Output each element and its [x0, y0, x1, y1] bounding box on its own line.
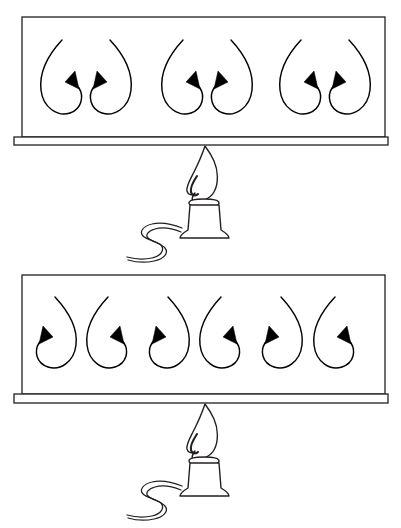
- heating-plate-top: [14, 137, 388, 145]
- panel-top: [14, 17, 388, 262]
- convection-diagram: [0, 0, 401, 528]
- candle-top: [127, 146, 229, 262]
- candle-body-bottom: [180, 463, 229, 496]
- panel-bottom: [14, 275, 388, 520]
- candle-body-top: [180, 205, 229, 238]
- diagram-canvas: [0, 0, 401, 528]
- heating-plate-bottom: [14, 394, 388, 403]
- candle-bottom: [127, 404, 229, 520]
